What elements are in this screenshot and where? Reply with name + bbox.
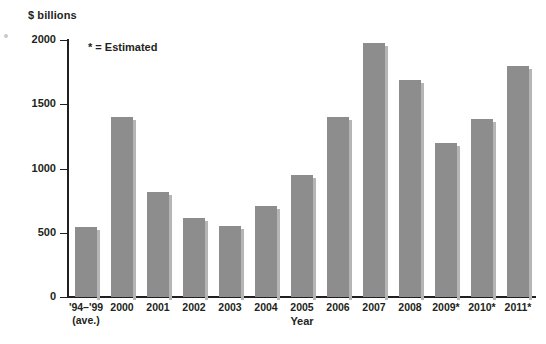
x-tick-label-text: 2010* — [468, 301, 495, 313]
bar-shadow — [385, 46, 388, 300]
x-tick-label: 2005 — [284, 301, 320, 314]
x-tick-label-text: 2003 — [218, 301, 241, 313]
x-tick-label: 2004 — [248, 301, 284, 314]
bar-chart: $ billions * = Estimated 050010001500200… — [0, 0, 546, 344]
x-tick-label-text: 2009* — [432, 301, 459, 313]
bar — [471, 119, 493, 297]
plot-area — [68, 40, 536, 297]
y-tick-mark — [60, 169, 68, 170]
y-tick-mark — [60, 297, 68, 298]
x-tick-label: 2007 — [356, 301, 392, 314]
bar-shadow — [97, 230, 100, 300]
y-tick-label: 1500 — [32, 97, 56, 109]
bar — [75, 227, 97, 297]
bar — [219, 226, 241, 297]
x-tick-label-text: 2001 — [146, 301, 169, 313]
y-tick-mark — [60, 40, 68, 41]
y-tick-mark — [60, 233, 68, 234]
y-tick-label: 1000 — [32, 162, 56, 174]
x-tick-label: 2009* — [428, 301, 464, 314]
x-tick-label: 2003 — [212, 301, 248, 314]
bar-shadow — [277, 209, 280, 300]
x-tick-label-text: 2011* — [505, 301, 532, 313]
x-tick-label-text: 2008 — [398, 301, 421, 313]
y-tick-mark — [60, 104, 68, 105]
x-tick-label-text: 2002 — [182, 301, 205, 313]
bar-shadow — [457, 146, 460, 300]
x-tick-label: 2008 — [392, 301, 428, 314]
bar-shadow — [241, 229, 244, 300]
bar — [111, 117, 133, 297]
bar — [147, 192, 169, 297]
bar — [363, 43, 385, 297]
y-tick-label: 2000 — [32, 33, 56, 45]
bar-shadow — [493, 122, 496, 300]
bar — [399, 80, 421, 297]
bar-shadow — [313, 178, 316, 300]
y-axis-title: $ billions — [28, 9, 77, 21]
bar-shadow — [349, 120, 352, 300]
x-tick-label: 2000 — [104, 301, 140, 314]
bar — [183, 218, 205, 297]
x-axis-title: Year — [68, 315, 536, 327]
x-tick-label-text: 2006 — [326, 301, 349, 313]
bar-shadow — [421, 83, 424, 300]
x-tick-label: 2001 — [140, 301, 176, 314]
bar-shadow — [529, 69, 532, 300]
bar-shadow — [169, 195, 172, 300]
x-tick-label-text: 2004 — [254, 301, 277, 313]
y-tick-label: 0 — [50, 290, 56, 302]
bar — [507, 66, 529, 297]
x-tick-label: 2011* — [500, 301, 536, 314]
x-tick-label-text: 2005 — [290, 301, 313, 313]
bar — [435, 143, 457, 297]
bar — [291, 175, 313, 297]
x-tick-label-text: 2007 — [362, 301, 385, 313]
page-corner-mark — [4, 34, 8, 38]
y-tick-label: 500 — [38, 226, 56, 238]
x-tick-label: 2010* — [464, 301, 500, 314]
x-tick-label: 2006 — [320, 301, 356, 314]
bar-shadow — [205, 221, 208, 300]
x-tick-label: 2002 — [176, 301, 212, 314]
x-tick-label-text: 2000 — [110, 301, 133, 313]
bar-shadow — [133, 120, 136, 300]
x-tick-label-text: '94–'99 — [69, 301, 103, 313]
bar — [327, 117, 349, 297]
bar — [255, 206, 277, 297]
